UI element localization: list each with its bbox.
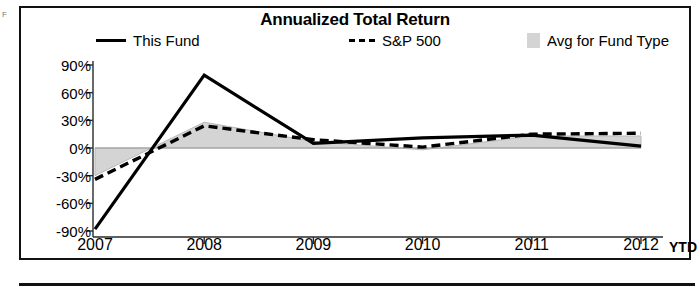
y-axis-tick-label: -60% (31, 195, 91, 212)
scan-edge-artifact: F (2, 0, 12, 306)
plot-area: 90%60%30%0%-30%-60%-90% (21, 8, 693, 258)
y-axis-tick-label: 90% (31, 57, 91, 74)
bottom-divider (19, 283, 695, 286)
line-series-sp500 (95, 126, 641, 179)
y-axis-tick-label: 0% (31, 140, 91, 157)
x-axis-unit-label: YTD (669, 239, 697, 255)
x-axis-tick-label: 2009 (296, 236, 332, 254)
x-axis-tick-label: 2007 (77, 236, 113, 254)
y-axis-tick-label: 30% (31, 112, 91, 129)
line-series-this-fund (95, 75, 641, 229)
chart-plot-svg (21, 8, 693, 258)
x-axis-tick-label: 2012 (623, 236, 659, 254)
y-axis-tick-label: 60% (31, 84, 91, 101)
chart-frame: Annualized Total Return This Fund S&P 50… (19, 6, 691, 260)
y-axis-tick-labels: 90%60%30%0%-30%-60%-90% (29, 8, 91, 258)
x-axis-tick-labels: 200720082009201020112012YTD (21, 236, 693, 266)
x-axis-tick-label: 2011 (515, 236, 549, 254)
y-axis-tick-label: -30% (31, 167, 91, 184)
x-axis-tick-label: 2008 (186, 236, 222, 254)
x-axis-tick-label: 2010 (405, 236, 441, 254)
area-series-avg-fund-type (95, 122, 641, 175)
